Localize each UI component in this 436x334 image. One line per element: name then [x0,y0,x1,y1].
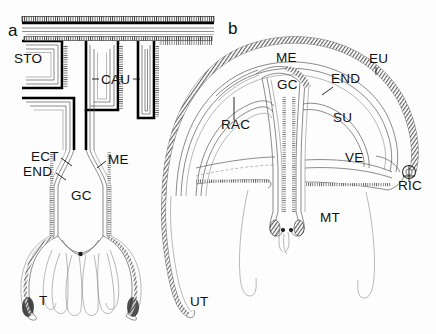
label-ric: RIC [398,178,422,193]
label-me-b: ME [276,50,297,65]
label-gc-b: GC [277,77,298,92]
label-rac: RAC [221,117,250,132]
label-su: SU [333,110,352,125]
label-t: T [39,293,47,308]
label-ut: UT [190,294,208,309]
label-ve: VE [345,150,363,165]
label-mt: MT [320,210,340,225]
figure-svg: a STO CAU ECT END ME GC T b ME EU END GC… [0,0,436,334]
label-me-a: ME [108,152,129,167]
label-eu: EU [369,51,388,66]
label-sto: STO [14,51,42,66]
label-end: END [23,164,52,179]
label-gc-a: GC [71,188,92,203]
label-end-b: END [331,71,360,86]
panel-letter-a: a [8,21,18,40]
figure-root: a STO CAU ECT END ME GC T b ME EU END GC… [0,0,436,334]
panel-letter-b: b [228,19,237,38]
label-cau: CAU [101,72,130,87]
label-ect: ECT [31,149,59,164]
